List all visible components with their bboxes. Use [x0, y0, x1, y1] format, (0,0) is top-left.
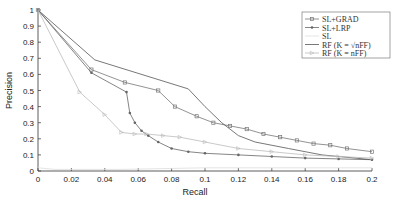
y-tick-label: 0.7: [23, 54, 35, 63]
x-tick-label: 0.2: [366, 175, 378, 184]
x-tick-label: 0: [36, 175, 41, 184]
y-tick-label: 0.4: [23, 103, 35, 112]
x-tick-label: 0.14: [264, 175, 280, 184]
y-tick-label: 0.2: [23, 135, 35, 144]
y-tick-label: 0.3: [23, 119, 35, 128]
dot-marker: [129, 112, 132, 115]
dot-marker: [237, 154, 240, 157]
dot-marker: [157, 141, 160, 144]
precision-recall-chart: 00.020.040.060.080.10.120.140.160.180.20…: [0, 0, 394, 201]
y-tick-label: 0.1: [23, 151, 35, 160]
dot-marker: [134, 121, 137, 124]
dot-marker: [304, 157, 307, 160]
dot-marker: [204, 152, 207, 155]
dot-marker: [187, 150, 190, 153]
y-axis-label: Precision: [4, 72, 14, 109]
dot-marker: [271, 155, 274, 158]
x-axis-label: Recall: [182, 187, 207, 197]
dot-marker: [311, 26, 314, 29]
x-tick-label: 0.06: [130, 175, 146, 184]
dot-marker: [125, 91, 128, 94]
x-tick-label: 0.02: [64, 175, 80, 184]
legend-label: RF (K = nFF): [322, 49, 367, 58]
y-tick-label: 0.9: [23, 22, 35, 31]
legend: SL+GRADSL+LRPSLRF (K = √nFF)RF (K = nFF): [302, 12, 390, 58]
y-tick-label: 0.5: [23, 87, 35, 96]
dot-marker: [170, 147, 173, 150]
x-tick-label: 0.04: [97, 175, 113, 184]
x-tick-label: 0.18: [331, 175, 347, 184]
dot-marker: [140, 129, 143, 132]
y-tick-label: 0: [30, 167, 35, 176]
x-tick-label: 0.16: [297, 175, 313, 184]
x-tick-label: 0.1: [199, 175, 211, 184]
y-tick-label: 1: [30, 6, 35, 15]
dot-marker: [90, 71, 93, 74]
y-tick-label: 0.8: [23, 38, 35, 47]
x-tick-label: 0.12: [231, 175, 247, 184]
x-tick-label: 0.08: [164, 175, 180, 184]
y-tick-label: 0.6: [23, 70, 35, 79]
